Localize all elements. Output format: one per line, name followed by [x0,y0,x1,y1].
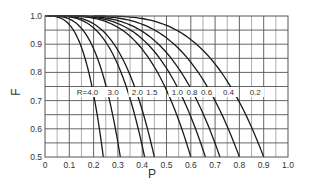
x-axis-label: P [148,167,156,181]
x-tick-label: 0 [43,160,48,170]
curve-label: 1.0 [172,88,184,97]
y-tick-label: 0.5 [30,152,42,162]
x-tick-label: 0.3 [112,160,124,170]
x-tick-label: 0.9 [258,160,270,170]
y-tick-label: 0.7 [30,96,42,106]
x-tick-label: 0.4 [136,160,148,170]
curve-label: 0.6 [201,88,213,97]
curve-label: 0.4 [223,88,235,97]
y-tick-label: 0.9 [30,39,42,49]
y-tick-label: 0.6 [30,124,42,134]
curve-label: 1.5 [146,88,158,97]
y-tick-labels: 0.50.60.70.80.91.0 [30,11,42,162]
x-tick-label: 0.6 [185,160,197,170]
x-tick-label: 0.1 [63,160,75,170]
y-tick-label: 1.0 [30,11,42,21]
chart: R=4.03.02.01.51.00.80.60.40.2 00.10.20.3… [0,0,309,183]
y-axis-label: F [9,88,23,95]
x-tick-label: 1.0 [282,160,294,170]
x-tick-labels: 00.10.20.30.40.50.60.70.80.91.0 [43,160,295,170]
curve-label: R=4.0 [77,88,99,97]
curve-label: 3.0 [107,88,119,97]
curve-label: 0.2 [250,88,262,97]
curve-label: 2.0 [132,88,144,97]
x-tick-label: 0.5 [161,160,173,170]
curve-label: 0.8 [186,88,198,97]
x-tick-label: 0.2 [88,160,100,170]
x-tick-label: 0.7 [209,160,221,170]
y-tick-label: 0.8 [30,67,42,77]
curve-labels: R=4.03.02.01.51.00.80.60.40.2 [77,87,264,97]
x-tick-label: 0.8 [233,160,245,170]
